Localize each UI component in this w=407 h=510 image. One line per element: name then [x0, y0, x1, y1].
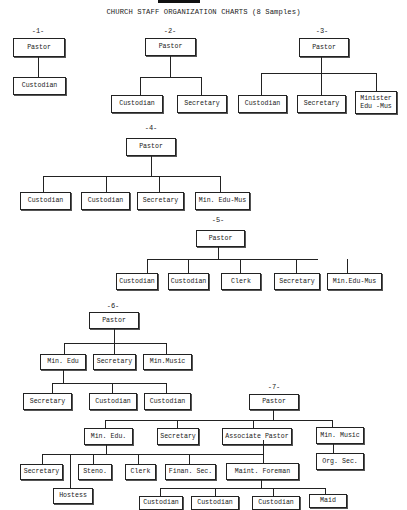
chart-number: -7-: [268, 383, 281, 391]
connector: [140, 77, 202, 78]
connector: [253, 420, 254, 428]
chart5-secretary-box: Secretary: [274, 273, 320, 290]
connector: [273, 488, 274, 496]
chart5-pastor-box: Pastor: [196, 230, 245, 247]
connector: [105, 420, 333, 421]
chart2-secretary-box: Secretary: [177, 95, 227, 113]
connector: [261, 480, 262, 488]
connector: [147, 259, 318, 260]
chart1-pastor-box: Pastor: [13, 38, 65, 57]
connector: [220, 176, 221, 192]
chart5-clerk-box: Clerk: [221, 273, 261, 290]
connector: [151, 156, 152, 176]
chart-number: -1-: [32, 27, 45, 35]
box-line: Edu -Mus: [360, 103, 392, 111]
chart7-secretary-sub-box: Secretary: [20, 464, 63, 480]
connector: [52, 383, 167, 384]
chart7-min-edu-box: Min. Edu.: [84, 428, 133, 445]
connector: [188, 259, 189, 273]
connector: [93, 454, 94, 464]
chart7-clerk-box: Clerk: [125, 464, 156, 480]
chart4-secretary-box: Secretary: [137, 192, 184, 210]
chart7-min-music-box: Min. Music: [316, 427, 364, 444]
connector: [240, 259, 241, 273]
chart7-hostess-box: Hostess: [53, 488, 93, 504]
chart7-org-sec-box: Org. Sec.: [316, 453, 364, 470]
connector: [321, 73, 322, 95]
connector: [177, 420, 178, 428]
connector: [263, 440, 264, 464]
chart2-custodian-box: Custodian: [111, 95, 163, 113]
connector: [147, 259, 148, 273]
chart2-pastor-box: Pastor: [145, 38, 196, 56]
heading-underline-bar: [158, 0, 200, 3]
connector: [296, 259, 297, 273]
chart6-min-music-box: Min.Music: [143, 354, 192, 370]
connector: [52, 383, 53, 393]
chart7-associate-pastor-box: Associate Pastor: [222, 428, 292, 445]
chart3-minister-edu-mus-box: Minister Edu -Mus: [355, 91, 397, 114]
chart-number: -2-: [164, 27, 177, 35]
connector: [321, 57, 322, 73]
chart3-secretary-box: Secretary: [297, 95, 346, 113]
connector: [160, 488, 161, 496]
chart7-custodian-box-3: Custodian: [252, 496, 300, 510]
chart6-secretary-sub-box: Secretary: [23, 393, 72, 410]
connector: [106, 176, 107, 192]
chart-number: -6-: [107, 302, 120, 310]
connector: [43, 176, 44, 192]
chart-number: -4-: [145, 124, 158, 132]
chart7-secretary-box: Secretary: [157, 428, 199, 445]
connector: [159, 176, 160, 192]
chart6-pastor-box: Pastor: [89, 312, 139, 329]
chart4-min-edu-mus-box: Min. Edu-Mus: [195, 192, 250, 210]
connector: [160, 488, 326, 489]
connector: [189, 454, 190, 464]
connector: [42, 454, 43, 464]
connector: [218, 247, 219, 259]
chart6-custodian-box-2: Custodian: [144, 393, 191, 410]
chart7-finan-sec-box: Finan. Sec.: [165, 464, 216, 480]
connector: [170, 56, 171, 77]
chart5-min-edu-mus-box: Min.Edu-Mus: [327, 273, 382, 290]
chart3-custodian-box: Custodian: [238, 95, 287, 113]
connector: [105, 420, 106, 428]
connector: [261, 73, 377, 74]
connector: [38, 57, 39, 77]
connector: [166, 383, 167, 393]
chart6-custodian-box-1: Custodian: [89, 393, 137, 410]
chart3-pastor-box: Pastor: [299, 38, 349, 57]
connector: [273, 410, 274, 420]
connector: [261, 73, 262, 95]
chart7-steno-box: Steno.: [78, 464, 112, 480]
connector: [114, 329, 115, 343]
connector: [138, 454, 139, 464]
chart5-custodian-box-1: Custodian: [116, 273, 158, 290]
chart4-custodian-box-1: Custodian: [20, 192, 71, 210]
connector: [43, 176, 221, 177]
chart7-maid-box: Maid: [309, 494, 347, 508]
connector: [347, 259, 348, 273]
connector: [63, 370, 64, 383]
chart-number: -3-: [316, 27, 329, 35]
chart7-maint-foreman-box: Maint. Foreman: [226, 463, 299, 480]
chart4-pastor-box: Pastor: [126, 138, 176, 156]
connector: [140, 77, 141, 95]
connector: [114, 343, 115, 354]
page-title: CHURCH STAFF ORGANIZATION CHARTS (8 Samp…: [0, 8, 407, 16]
connector: [166, 343, 167, 354]
chart7-pastor-box: Pastor: [249, 394, 299, 410]
chart6-min-edu-box: Min. Edu: [40, 354, 86, 370]
chart6-secretary-box: Secretary: [93, 354, 136, 370]
connector: [215, 488, 216, 496]
connector: [42, 454, 264, 455]
connector: [64, 343, 167, 344]
connector: [64, 343, 65, 354]
box-line: Minister: [360, 95, 392, 103]
connector: [70, 454, 71, 488]
connector: [112, 383, 113, 393]
chart1-custodian-box: Custodian: [13, 77, 66, 95]
connector: [376, 73, 377, 91]
connector: [333, 444, 334, 453]
connector: [106, 445, 107, 454]
